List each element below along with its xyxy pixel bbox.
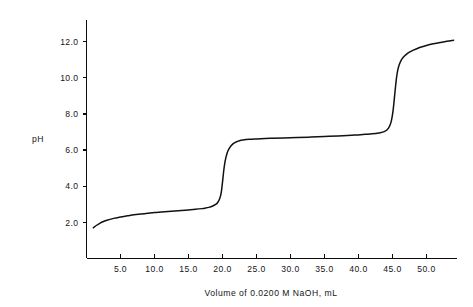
x-tick-label: 5.0: [114, 264, 127, 274]
y-tick-label: 2.0: [65, 218, 78, 228]
x-tick-label: 15.0: [179, 264, 197, 274]
y-tick-label: 12.0: [60, 37, 78, 47]
y-tick-label: 4.0: [65, 181, 78, 191]
x-tick-label: 20.0: [213, 264, 231, 274]
x-tick-label: 35.0: [315, 264, 333, 274]
x-tick-label: 10.0: [145, 264, 163, 274]
y-tick-label: 6.0: [65, 145, 78, 155]
y-tick-label: 8.0: [65, 109, 78, 119]
y-axis-label: pH: [32, 134, 44, 144]
x-tick-label: 45.0: [383, 264, 401, 274]
titration-curve-plot: 2.04.06.08.010.012.0 5.010.015.020.025.0…: [0, 0, 473, 307]
x-tick-label: 25.0: [247, 264, 265, 274]
x-tick-label: 30.0: [281, 264, 299, 274]
x-axis-label: Volume of 0.0200 M NaOH, mL: [205, 288, 338, 298]
y-axis-ticks: 2.04.06.08.010.012.0: [60, 37, 86, 228]
y-tick-label: 10.0: [60, 73, 78, 83]
x-tick-label: 50.0: [417, 264, 435, 274]
chart-figure: 2.04.06.08.010.012.0 5.010.015.020.025.0…: [0, 0, 473, 307]
titration-curve-line: [93, 40, 453, 228]
x-axis-ticks: 5.010.015.020.025.030.035.040.045.050.0: [114, 254, 436, 274]
x-tick-label: 40.0: [349, 264, 367, 274]
